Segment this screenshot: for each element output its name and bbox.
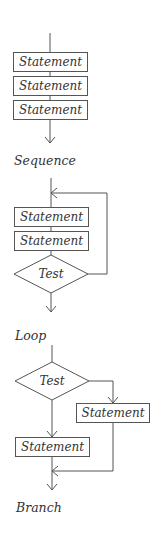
statement-label: Statement <box>21 440 84 454</box>
statement-label: Statement <box>20 210 83 224</box>
statement-label: Statement <box>19 55 82 69</box>
statement-label: Statement <box>19 103 82 117</box>
flow-line <box>89 381 113 403</box>
branch-caption: Branch <box>15 500 62 515</box>
statement-label: Statement <box>81 406 144 420</box>
loop-caption: Loop <box>14 328 46 343</box>
test-label: Test <box>38 267 63 281</box>
loop-diagram: Statement Statement Test Loop <box>14 178 107 343</box>
control-structures-diagram: Statement Statement Statement Sequence S… <box>0 0 160 533</box>
statement-label: Statement <box>20 234 83 248</box>
branch-diagram: Test Statement Statement Branch <box>15 345 150 515</box>
sequence-diagram: Statement Statement Statement Sequence <box>14 33 88 168</box>
statement-label: Statement <box>19 79 82 93</box>
sequence-caption: Sequence <box>14 153 76 168</box>
test-label: Test <box>39 374 64 388</box>
